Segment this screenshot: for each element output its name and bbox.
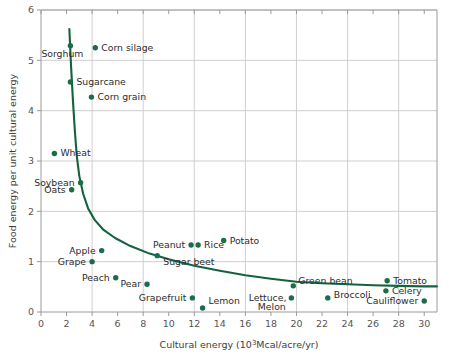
data-point — [99, 248, 104, 253]
x-tick-label: 6 — [115, 318, 121, 329]
y-tick-label: 3 — [28, 155, 34, 166]
x-tick-label: 4 — [89, 318, 95, 329]
x-tick-label: 24 — [342, 318, 354, 329]
data-point — [113, 275, 118, 280]
y-tick-label: 6 — [28, 4, 34, 15]
data-point-label: Grapefruit — [139, 292, 187, 303]
x-tick-label: 28 — [393, 318, 405, 329]
data-point — [144, 282, 149, 287]
y-axis-title: Food energy per unit cultural energy — [7, 73, 18, 248]
y-tick-label: 0 — [28, 306, 34, 317]
x-axis-title-pre: Cultural energy (10 — [160, 339, 252, 350]
data-point-label: Grape — [58, 256, 87, 267]
x-tick-label: 18 — [265, 318, 277, 329]
data-point-label: Wheat — [60, 147, 91, 158]
data-point-label: Peach — [82, 272, 110, 283]
figure-container: 0246810121416182022242628300123456 Sorgh… — [0, 0, 449, 355]
x-tick-label: 26 — [367, 318, 379, 329]
energy-scatter-chart: 0246810121416182022242628300123456 Sorgh… — [0, 0, 449, 355]
data-point-label: Corn grain — [97, 91, 146, 102]
data-point-label: Peanut — [153, 239, 185, 250]
y-tick-label: 1 — [28, 256, 34, 267]
data-point — [52, 151, 57, 156]
data-point-label: Oats — [44, 184, 66, 195]
data-point — [195, 242, 200, 247]
data-point-label: Potato — [230, 235, 260, 246]
data-point — [89, 259, 94, 264]
x-tick-label: 0 — [38, 318, 44, 329]
data-point — [68, 79, 73, 84]
x-tick-label: 20 — [290, 318, 302, 329]
y-tick-label: 2 — [28, 206, 34, 217]
data-point-label: Apple — [69, 245, 96, 256]
x-tick-label: 10 — [163, 318, 175, 329]
data-point — [291, 283, 296, 288]
data-point — [190, 295, 195, 300]
data-point — [384, 278, 389, 283]
data-point — [93, 45, 98, 50]
x-tick-label: 16 — [239, 318, 251, 329]
data-point — [200, 305, 205, 310]
data-point-label: Corn silage — [101, 42, 153, 53]
data-point-label: Green bean — [298, 275, 352, 286]
data-point-label: Lemon — [209, 295, 240, 306]
x-tick-label: 8 — [140, 318, 146, 329]
x-axis-title: Cultural energy (103Mcal/acre/yr) — [160, 339, 319, 351]
data-point-label: Broccoli — [334, 289, 371, 300]
data-point — [78, 180, 83, 185]
data-point — [422, 298, 427, 303]
y-tick-label: 4 — [28, 105, 34, 116]
data-point-label: Pear — [121, 278, 142, 289]
x-tick-label: 30 — [418, 318, 430, 329]
x-tick-label: 22 — [316, 318, 328, 329]
data-point — [188, 242, 193, 247]
data-point-label: Sorghum — [41, 48, 83, 59]
data-point — [289, 295, 294, 300]
x-axis-title-post: Mcal/acre/yr) — [256, 339, 318, 350]
data-point-label: Sugar beet — [163, 256, 215, 267]
x-tick-label: 14 — [214, 318, 226, 329]
data-point — [325, 295, 330, 300]
data-point-label: Melon — [258, 301, 286, 312]
data-point — [89, 94, 94, 99]
data-point-label: Rice — [204, 239, 224, 250]
data-point — [155, 253, 160, 258]
x-tick-label: 12 — [188, 318, 200, 329]
y-tick-label: 5 — [28, 55, 34, 66]
data-point-label: Sugarcane — [76, 76, 126, 87]
data-point — [69, 187, 74, 192]
data-point-label: Cauliflower — [366, 295, 418, 306]
data-point — [383, 288, 388, 293]
x-tick-label: 2 — [64, 318, 70, 329]
